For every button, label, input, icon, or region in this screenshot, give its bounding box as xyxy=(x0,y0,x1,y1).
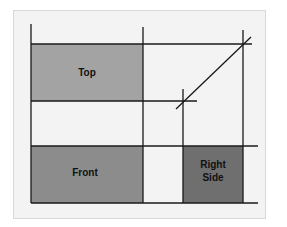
right-side-view-label-line2: Side xyxy=(202,172,224,183)
miter-line xyxy=(176,37,251,109)
projection-diagram: Top Front Right Side xyxy=(0,0,287,227)
front-view-label: Front xyxy=(72,167,98,178)
right-side-view-label-line1: Right xyxy=(200,159,226,170)
top-view-label: Top xyxy=(78,67,96,78)
